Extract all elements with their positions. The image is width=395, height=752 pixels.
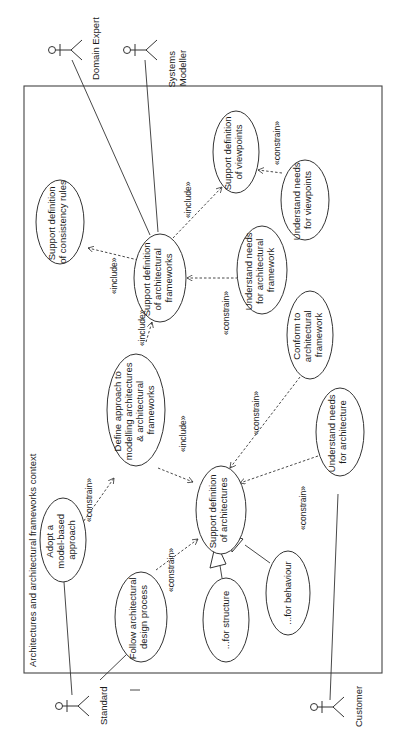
use-case-needs-architecture[interactable]: Understand needs for architecture xyxy=(316,388,364,476)
use-case-label: frameworks xyxy=(145,385,156,434)
actor-domain-expert[interactable] xyxy=(49,40,83,60)
stereotype-label: «constrain» xyxy=(272,121,282,165)
use-case-label: ...for behaviour xyxy=(282,561,293,624)
use-case-needs-viewpoints[interactable]: Understand needs for viewpoints xyxy=(281,160,329,240)
actor-icon xyxy=(124,47,131,54)
svg-text:...for behaviour: ...for behaviour xyxy=(282,561,293,624)
svg-text:...for structure: ...for structure xyxy=(220,591,231,650)
use-case-label: Conform to xyxy=(291,313,302,360)
use-case-label: ...for structure xyxy=(220,591,231,650)
use-case-label: framework xyxy=(313,313,324,358)
generalization-behaviour xyxy=(245,545,270,563)
actor-icon xyxy=(49,47,56,54)
svg-text:Understand needs for vie: Understand needs for viewpoints xyxy=(291,160,313,240)
use-case-label: Understand needs xyxy=(291,162,302,240)
stereotype-label: «include» xyxy=(109,257,119,294)
use-case-label: Support definition xyxy=(207,474,218,548)
use-case-label: of architectures xyxy=(218,477,229,542)
use-case-viewpoints[interactable]: Support definition of viewpoints xyxy=(213,111,259,193)
stereotype-label: «constrain» xyxy=(251,391,261,435)
use-case-label: design process xyxy=(138,585,149,649)
use-case-label: Follow architectural xyxy=(127,577,138,659)
svg-text:Support definition of ar: Support definition of architectures xyxy=(207,472,229,549)
svg-text:Support definition of co: Support definition of consistency rules xyxy=(46,180,68,264)
actor-systems-modeller[interactable] xyxy=(124,40,158,60)
use-case-label: approach xyxy=(66,520,77,560)
use-case-label: Support definition xyxy=(222,116,233,190)
use-case-consistency[interactable]: Support definition of consistency rules xyxy=(36,180,84,264)
system-boundary-frame xyxy=(24,86,382,673)
assoc-customer-needs-architecture-2 xyxy=(330,494,338,700)
actor-label: Domain Expert xyxy=(90,17,101,80)
use-case-label: for architectural xyxy=(254,239,265,304)
use-case-label: Define approach to xyxy=(112,371,123,451)
use-case-behaviour[interactable]: ...for behaviour xyxy=(266,551,310,635)
constrain-follow-architectures xyxy=(156,539,198,570)
use-case-adopt[interactable]: Adopt a model-based approach xyxy=(40,498,86,582)
stereotype-label: «constrain» xyxy=(84,478,94,522)
use-case-follow-process[interactable]: Follow architectural design process xyxy=(115,572,167,662)
stereotype-label: «include» xyxy=(183,181,193,218)
stereotype-label: «constrain» xyxy=(166,548,176,592)
use-case-conform[interactable]: Conform to architectural framework xyxy=(287,291,333,379)
use-case-label: architectural xyxy=(302,310,313,362)
actor-standard[interactable] xyxy=(56,696,90,716)
use-case-label: for viewpoints xyxy=(302,171,313,229)
use-case-needs-framework[interactable]: Understand needs for architectural frame… xyxy=(237,226,287,314)
use-case-label: model-based xyxy=(55,514,66,569)
constrain-conform-architectures xyxy=(230,377,300,468)
constrain-needs-architecture xyxy=(240,456,318,483)
constrain-needs-viewpoints xyxy=(258,170,282,173)
use-case-label: for architecture xyxy=(337,400,348,463)
use-case-diagram: Architectures and architectural framewor… xyxy=(0,0,395,752)
actor-customer[interactable] xyxy=(311,697,345,717)
svg-text:Conform to architectural: Conform to architectural framework xyxy=(291,308,324,362)
actor-label: Systems Modeller xyxy=(166,48,188,87)
use-case-label: frameworks xyxy=(163,253,174,302)
stereotype-label: «include» xyxy=(178,415,188,452)
assoc-standard-follow xyxy=(100,654,127,680)
use-case-label: modelling architectures xyxy=(123,362,134,460)
use-case-frameworks[interactable]: Support definition of architectural fram… xyxy=(134,234,186,322)
use-case-label: & architectural xyxy=(134,381,145,442)
use-case-label: Adopt a xyxy=(44,524,55,557)
use-case-label: of architectural xyxy=(152,248,163,310)
use-case-label: Understand needs xyxy=(326,394,337,472)
actor-icon xyxy=(311,704,318,711)
include-define-architectures xyxy=(158,468,193,482)
use-case-label: of viewpoints xyxy=(233,124,244,179)
stereotype-label: «constrain» xyxy=(298,486,308,530)
assoc-standard-adopt xyxy=(64,582,72,695)
use-case-label: of consistency rules xyxy=(57,180,68,264)
frame-title: Architectures and architectural framewor… xyxy=(27,453,38,667)
use-case-label: Support definition xyxy=(141,242,152,316)
include-frameworks-viewpoints xyxy=(173,187,222,238)
svg-text:Understand needs for arc: Understand needs for architecture xyxy=(326,392,348,472)
use-case-architectures[interactable]: Support definition of architectures xyxy=(196,466,246,554)
use-case-label: Understand needs xyxy=(243,232,254,310)
use-case-structure[interactable]: ...for structure xyxy=(203,578,249,662)
svg-text:Follow architectural des: Follow architectural design process xyxy=(127,575,149,659)
use-case-label: framework xyxy=(265,248,276,293)
stereotype-label: «constrain» xyxy=(221,291,231,335)
svg-text:Support definition of vi: Support definition of viewpoints xyxy=(222,114,244,191)
actor-icon xyxy=(56,703,63,710)
use-case-label: Support definition xyxy=(46,186,57,260)
actor-label: Customer xyxy=(353,686,364,727)
use-case-define-approach[interactable]: Define approach to modelling architectur… xyxy=(107,354,165,466)
actor-label: Standard xyxy=(98,686,109,725)
